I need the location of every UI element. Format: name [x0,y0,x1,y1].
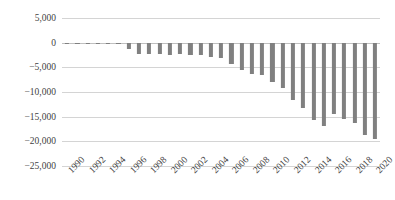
x-label-slot: 1996 [124,166,134,200]
x-axis-labels: 1990199219941996199820002002200420062008… [62,166,380,200]
x-label-slot [72,166,82,200]
bar-slot [308,18,318,166]
x-label-slot [360,166,370,200]
bar-slot [134,18,144,166]
bar [260,43,264,75]
x-label-slot: 2018 [349,166,359,200]
bar-slot [339,18,349,166]
plot-area [62,18,380,166]
x-label-slot: 1990 [62,166,72,200]
bar [270,43,274,82]
bar-slot [206,18,216,166]
bar [116,43,120,44]
x-label-slot: 1992 [83,166,93,200]
bar-series [62,18,380,166]
bar-slot [226,18,236,166]
y-axis-tick-label: −5,000 [29,62,56,72]
x-label-slot: 2006 [226,166,236,200]
x-label-slot [154,166,164,200]
bar [209,43,213,58]
x-label-slot [257,166,267,200]
x-label-slot: 2004 [206,166,216,200]
x-label-slot [339,166,349,200]
bar-slot [83,18,93,166]
bar-slot [185,18,195,166]
x-label-slot [113,166,123,200]
bar [240,43,244,71]
bar [86,43,90,44]
bar-slot [288,18,298,166]
y-axis-tick-label: −25,000 [25,161,56,171]
x-label-slot [319,166,329,200]
bar [281,43,285,88]
bar-slot [72,18,82,166]
bar [198,43,202,55]
x-label-slot: 1998 [144,166,154,200]
y-axis-tick-label: −10,000 [25,87,56,97]
bar [219,43,223,58]
bar-slot [195,18,205,166]
bar-slot [154,18,164,166]
bar [373,43,377,139]
bar [342,43,346,119]
bar-slot [175,18,185,166]
y-axis-tick-label: −15,000 [25,112,56,122]
bar [178,43,182,55]
bar-slot [93,18,103,166]
bar-slot [360,18,370,166]
bar-slot [298,18,308,166]
x-label-slot [93,166,103,200]
bar-slot [124,18,134,166]
bar [188,43,192,56]
x-label-slot: 2000 [165,166,175,200]
bar-slot [319,18,329,166]
y-axis-tick-label: −20,000 [25,136,56,146]
bar [352,43,356,123]
bar-slot [165,18,175,166]
x-label-slot [237,166,247,200]
bar [291,43,295,100]
bar-slot [278,18,288,166]
x-label-slot: 2012 [288,166,298,200]
bar-slot [349,18,359,166]
bar-slot [62,18,72,166]
y-axis-tick-label: 5,000 [35,13,56,23]
x-label-slot [195,166,205,200]
bar [96,43,100,44]
bar [322,43,326,126]
bar-slot [329,18,339,166]
bar [301,43,305,109]
x-label-slot: 2016 [329,166,339,200]
bar-slot [144,18,154,166]
bar [75,43,79,44]
bar-slot [247,18,257,166]
bar-slot [257,18,267,166]
x-label-slot [175,166,185,200]
bar [157,43,161,54]
y-axis-tick-label: 0 [51,38,56,48]
x-label-slot [278,166,288,200]
bar [106,43,110,44]
bar [168,43,172,55]
x-label-slot: 2002 [185,166,195,200]
bar [137,43,141,54]
bar [127,43,131,49]
x-label-slot: 2008 [247,166,257,200]
x-label-slot [298,166,308,200]
bar-slot [267,18,277,166]
x-label-slot [134,166,144,200]
x-label-slot: 2020 [370,166,380,200]
x-label-slot: 2014 [308,166,318,200]
bar [363,43,367,136]
bar [65,43,69,44]
bar [332,43,336,115]
bar [311,43,315,120]
x-label-slot: 1994 [103,166,113,200]
x-label-slot: 2010 [267,166,277,200]
bar-slot [237,18,247,166]
x-label-slot [216,166,226,200]
bar-slot [113,18,123,166]
bar-slot [103,18,113,166]
bar [229,43,233,64]
